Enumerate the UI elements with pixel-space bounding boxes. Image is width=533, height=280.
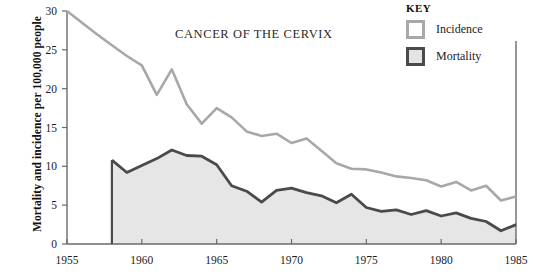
x-tick-label: 1985	[505, 254, 528, 266]
y-tick-label: 0	[31, 238, 57, 250]
x-tick-label: 1960	[130, 254, 153, 266]
y-tick-label: 20	[31, 83, 57, 95]
y-tick-label: 30	[31, 5, 57, 17]
x-tick-label: 1975	[355, 254, 378, 266]
y-tick-label: 10	[31, 160, 57, 172]
x-tick-label: 1980	[430, 254, 453, 266]
mortality-area	[112, 150, 516, 244]
x-tick-label: 1970	[280, 254, 303, 266]
y-tick-label: 5	[31, 199, 57, 211]
x-tick-label: 1955	[56, 254, 79, 266]
x-tick-label: 1965	[205, 254, 228, 266]
plot-area	[0, 0, 533, 280]
y-tick-label: 15	[31, 122, 57, 134]
y-tick-label: 25	[31, 44, 57, 56]
